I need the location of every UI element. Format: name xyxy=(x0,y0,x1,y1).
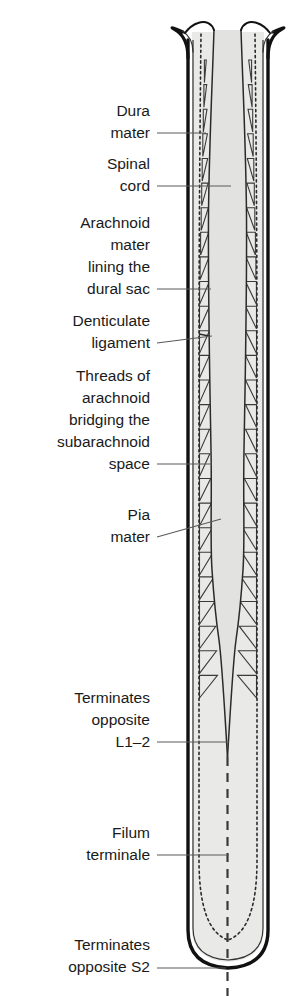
spinal-cord-meninges-figure: DuramaterSpinalcordArachnoidmaterlining … xyxy=(0,0,306,996)
label-spinal-cord: Spinalcord xyxy=(107,155,150,194)
label-arachnoid-mater-lining-dural-sac: Arachnoidmaterlining thedural sac xyxy=(80,214,150,297)
cord-flare-left xyxy=(185,22,214,33)
label-filum-terminale: Filumterminale xyxy=(86,824,150,863)
label-denticulate-ligament: Denticulateligament xyxy=(72,312,150,351)
label-threads-of-arachnoid: Threads ofarachnoidbridging thesubarachn… xyxy=(57,367,151,472)
label-terminates-opposite-l1-2: TerminatesoppositeL1–2 xyxy=(74,689,150,750)
label-terminates-opposite-s2: Terminatesopposite S2 xyxy=(68,936,150,975)
cord-flare-right xyxy=(241,22,270,33)
label-pia-mater: Piamater xyxy=(110,506,150,545)
label-dura-mater: Duramater xyxy=(110,102,150,141)
